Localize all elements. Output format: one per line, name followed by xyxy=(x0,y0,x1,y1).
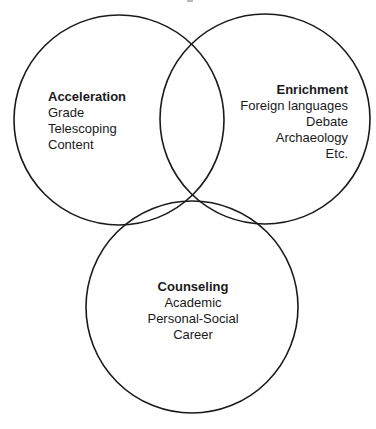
set-item: Telescoping xyxy=(48,121,126,137)
set-title: Acceleration xyxy=(48,89,126,105)
venn-diagram xyxy=(0,0,376,429)
set-title: Counseling xyxy=(143,279,243,295)
set-label-acceleration: Acceleration Grade Telescoping Content xyxy=(48,89,126,153)
set-item: Archaeology xyxy=(240,130,348,146)
set-label-counseling: Counseling Academic Personal-Social Care… xyxy=(143,279,243,343)
set-item: Academic xyxy=(143,295,243,311)
set-item: Grade xyxy=(48,105,126,121)
set-item: Foreign languages xyxy=(240,98,348,114)
set-item: Career xyxy=(143,327,243,343)
set-title: Enrichment xyxy=(240,82,348,98)
set-item: Personal-Social xyxy=(143,311,243,327)
set-item: Etc. xyxy=(240,146,348,162)
set-item: Debate xyxy=(240,114,348,130)
set-item: Content xyxy=(48,137,126,153)
set-label-enrichment: Enrichment Foreign languages Debate Arch… xyxy=(240,82,348,162)
